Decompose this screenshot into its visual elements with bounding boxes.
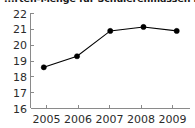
x-tick-label: 2009	[159, 113, 187, 126]
plot-area: 22 21 20 19 18 17 16 2005 2006 2007 2008…	[0, 0, 195, 128]
y-tick-label: 19	[13, 55, 27, 68]
x-tick-label: 2006	[64, 113, 92, 126]
x-tick-label: 2007	[96, 113, 124, 126]
y-tick-label: 21	[13, 23, 27, 36]
line-chart: ...rten-Menge für Schulerenmassen in Pro…	[0, 0, 195, 128]
y-tick-label: 20	[13, 39, 27, 52]
y-tick-label: 18	[13, 71, 27, 84]
x-axis-tick-labels: 2005 2006 2007 2008 2009	[33, 113, 187, 126]
y-tick-label: 22	[13, 8, 27, 21]
data-point	[74, 54, 79, 59]
series-markers	[41, 24, 179, 70]
y-axis-tick-labels: 22 21 20 19 18 17 16	[13, 8, 27, 116]
y-tick-label: 16	[13, 103, 27, 116]
data-point	[141, 24, 146, 29]
data-point	[174, 28, 179, 33]
x-tick-label: 2005	[33, 113, 61, 126]
y-tick-label: 17	[13, 87, 27, 100]
data-point	[41, 65, 46, 70]
data-point	[108, 28, 113, 33]
x-tick-label: 2008	[127, 113, 155, 126]
